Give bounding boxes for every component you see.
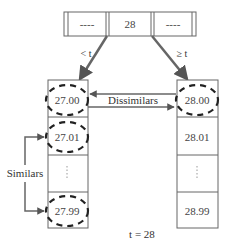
- root-cell-left: ----: [80, 18, 95, 30]
- threshold-label: t = 28: [129, 228, 155, 240]
- edge-left-label: < t: [81, 48, 92, 59]
- left-bucket: 27.00 27.01 27.99: [46, 80, 88, 228]
- left-cell-27-99: 27.99: [55, 205, 80, 217]
- right-cell-28-99: 28.99: [185, 205, 210, 217]
- root-cell-right: ----: [166, 18, 181, 30]
- right-bucket: 28.00 28.01 28.99: [176, 80, 218, 228]
- left-cell-27-00: 27.00: [55, 94, 80, 106]
- dissimilars-label: Dissimilars: [108, 94, 158, 106]
- root-cell-key: 28: [125, 18, 137, 30]
- root-node: ---- 28 ----: [64, 12, 196, 36]
- right-cell-28-00: 28.00: [185, 94, 210, 106]
- diagram-canvas: ---- 28 ---- < t ≥ t 27.00 27.01 27.99 2…: [0, 0, 229, 246]
- right-cell-28-01: 28.01: [185, 131, 210, 143]
- similars-label: Similars: [7, 167, 44, 179]
- left-cell-27-01: 27.01: [55, 131, 80, 143]
- edge-right-label: ≥ t: [177, 48, 188, 59]
